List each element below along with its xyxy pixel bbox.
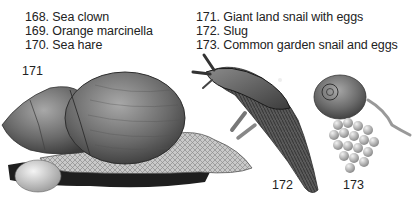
figure-number-171: 171	[22, 64, 43, 78]
garden-snail-illustration	[314, 75, 410, 173]
giant-land-snail-illustration	[2, 72, 255, 192]
illustration-canvas	[0, 0, 414, 208]
figure-number-172: 172	[272, 178, 293, 192]
figure-number-173: 173	[343, 178, 364, 192]
egg-cluster	[329, 118, 379, 173]
